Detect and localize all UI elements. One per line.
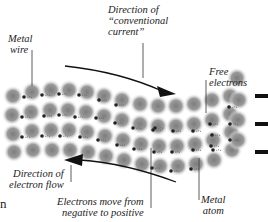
cropped-text-fragment: n: [0, 196, 7, 212]
metal-atom: [131, 134, 152, 155]
terminal-dash: [255, 94, 268, 98]
metal-atom: [185, 134, 206, 155]
metal-atom: [228, 110, 249, 131]
label-metal-wire: Metal wire: [8, 33, 33, 55]
terminal-dash: [255, 150, 268, 154]
metal-atom: [59, 120, 80, 141]
metal-atom: [202, 110, 223, 131]
metal-atom: [76, 102, 97, 123]
metal-atom: [42, 140, 63, 161]
metal-atom: [166, 96, 187, 117]
metal-atom: [23, 140, 44, 161]
metal-atom: [40, 100, 61, 121]
metal-atom: [203, 130, 224, 151]
label-free-electrons: Free electrons: [209, 66, 247, 88]
metal-atom: [202, 90, 223, 111]
metal-atom: [204, 150, 225, 171]
metal-atom: [148, 116, 169, 137]
metal-atom: [130, 94, 151, 115]
metal-atom: [150, 156, 171, 177]
label-metal-atom: Metal atom: [201, 194, 226, 216]
metal-atom: [186, 154, 207, 175]
metal-atom: [3, 86, 24, 107]
metal-atom: [22, 121, 43, 142]
metal-atom: [112, 90, 133, 111]
metal-atom: [95, 126, 116, 147]
metal-atom: [130, 114, 151, 135]
metal-atom: [94, 106, 115, 127]
metal-atom: [3, 124, 24, 145]
terminal-dash: [255, 122, 268, 126]
metal-atom: [113, 130, 134, 151]
label-conventional-current: Direction of “conventional current”: [108, 4, 168, 37]
metal-atom: [184, 94, 205, 115]
metal-atom: [59, 80, 80, 101]
metal-atom: [2, 105, 23, 126]
metal-atom: [112, 110, 133, 131]
metal-atom: [148, 96, 169, 117]
metal-atom: [4, 142, 25, 163]
label-electron-flow: Direction of electron flow: [9, 168, 64, 190]
metal-atom: [149, 136, 170, 157]
metal-atom: [41, 120, 62, 141]
metal-atom: [77, 122, 98, 143]
metal-atom: [167, 136, 188, 157]
label-electrons-move: Electrons move from negative to positive: [57, 196, 144, 218]
metal-atom: [21, 102, 42, 123]
metal-atom: [41, 80, 62, 101]
metal-atom: [229, 90, 250, 111]
metal-atom: [94, 86, 115, 107]
metal-atom: [114, 150, 135, 171]
arrowhead-right-icon: [157, 86, 176, 97]
metal-atom: [168, 156, 189, 177]
metal-atom: [166, 116, 187, 137]
